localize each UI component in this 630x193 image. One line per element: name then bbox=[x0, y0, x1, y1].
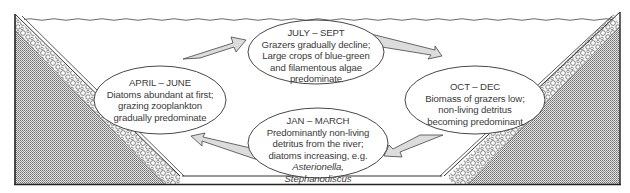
season-label-july-sept: JULY – SEPT Grazers gradually decline; L… bbox=[246, 27, 386, 85]
season-label-april-june: APRIL – JUNE Diatoms abundant at first; … bbox=[90, 77, 230, 123]
season-text-line: grazing zooplankton bbox=[90, 100, 230, 112]
season-label-oct-dec: OCT – DEC Biomass of grazers low; non-li… bbox=[405, 81, 545, 127]
genus-name-asterionella: Asterionella, bbox=[248, 161, 388, 173]
season-label-jan-march: JAN – MARCH Predominantly non-living det… bbox=[248, 115, 388, 185]
arrow-april-to-july-icon bbox=[183, 37, 246, 59]
season-text-line: Diatoms abundant at first; bbox=[90, 89, 230, 101]
season-text-line: Predominantly non-living bbox=[248, 127, 388, 139]
arrow-oct-to-jan-icon bbox=[384, 135, 443, 157]
season-text-line: becoming predominant bbox=[405, 116, 545, 128]
season-text-line: Biomass of grazers low; bbox=[405, 93, 545, 105]
season-text-line: gradually predominate bbox=[90, 112, 230, 124]
season-text-line: detritus from the river; bbox=[248, 138, 388, 150]
season-text-line: Large crops of blue-green bbox=[246, 50, 386, 62]
genus-name-stephanodiscus: Stephanodiscus bbox=[248, 173, 388, 185]
season-heading: APRIL – JUNE bbox=[90, 77, 230, 89]
season-heading: JAN – MARCH bbox=[248, 115, 388, 127]
season-text-line: and filamentous algae bbox=[246, 62, 386, 74]
season-text-line: predominate bbox=[246, 73, 386, 85]
season-text-line: diatoms increasing, e.g. bbox=[248, 150, 388, 162]
season-heading: OCT – DEC bbox=[405, 81, 545, 93]
season-text-line: Grazers gradually decline; bbox=[246, 39, 386, 51]
season-text-line: non-living detritus bbox=[405, 104, 545, 116]
season-heading: JULY – SEPT bbox=[246, 27, 386, 39]
reservoir-seasonal-cycle-diagram: JULY – SEPT Grazers gradually decline; L… bbox=[0, 0, 630, 193]
